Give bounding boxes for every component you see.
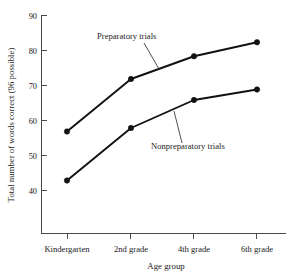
data-point-preparatory-2nd-grade bbox=[128, 76, 133, 81]
data-point-nonpreparatory-6th-grade bbox=[254, 87, 259, 92]
annotation-nonpreparatory-trials: Nonpreparatory trials bbox=[151, 141, 225, 151]
chart-figure: 90 80 70 60 50 40 Kindergarten 2nd grade… bbox=[0, 0, 291, 275]
series-markers-preparatory bbox=[64, 40, 259, 135]
y-axis-ticks bbox=[42, 16, 48, 191]
x-tick-label-4th-grade: 4th grade bbox=[178, 244, 210, 254]
data-point-preparatory-kindergarten bbox=[64, 129, 69, 134]
y-tick-label-70: 70 bbox=[29, 82, 37, 91]
x-tick-label-2nd-grade: 2nd grade bbox=[114, 244, 148, 254]
y-tick-label-90: 90 bbox=[29, 12, 37, 21]
annotation-preparatory-trials: Preparatory trials bbox=[97, 31, 157, 41]
series-line-preparatory bbox=[67, 42, 257, 131]
y-tick-label-50: 50 bbox=[29, 152, 37, 161]
y-axis-title: Total number of words correct (96 possib… bbox=[6, 48, 16, 203]
x-tick-label-6th-grade: 6th grade bbox=[241, 244, 273, 254]
data-point-preparatory-6th-grade bbox=[254, 40, 259, 45]
series-line-nonpreparatory bbox=[67, 90, 257, 181]
leader-line-preparatory bbox=[144, 43, 159, 69]
x-axis-title: Age group bbox=[147, 261, 185, 271]
series-markers-nonpreparatory bbox=[64, 87, 259, 183]
y-tick-label-60: 60 bbox=[29, 117, 37, 126]
data-point-preparatory-4th-grade bbox=[191, 54, 196, 59]
leader-line-nonpreparatory bbox=[174, 111, 182, 143]
data-point-nonpreparatory-4th-grade bbox=[191, 97, 196, 102]
y-tick-label-80: 80 bbox=[29, 47, 37, 56]
data-point-nonpreparatory-2nd-grade bbox=[128, 125, 133, 130]
y-tick-label-40: 40 bbox=[29, 187, 37, 196]
x-tick-label-kindergarten: Kindergarten bbox=[44, 244, 90, 254]
data-point-nonpreparatory-kindergarten bbox=[64, 178, 69, 183]
line-chart-canvas: 90 80 70 60 50 40 Kindergarten 2nd grade… bbox=[0, 0, 291, 275]
x-axis-ticks bbox=[68, 234, 257, 240]
